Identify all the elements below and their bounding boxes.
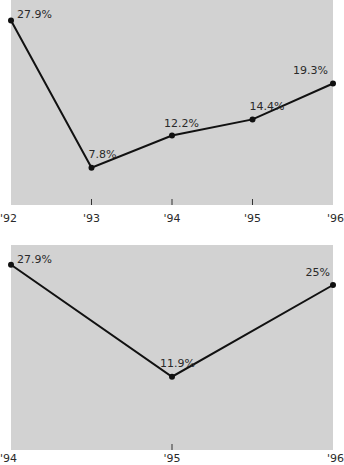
- x-tick-label: '93: [83, 212, 100, 225]
- data-point: [169, 133, 175, 139]
- x-tick-label: '94: [163, 212, 180, 225]
- chart-panel-2: 27.9%11.9%25%'94'95'96: [0, 245, 344, 465]
- chart-panel-1: 27.9%7.8%12.2%14.4%19.3%'92'93'94'95'96: [0, 0, 344, 225]
- data-point: [8, 17, 14, 23]
- data-label: 11.9%: [160, 357, 195, 370]
- data-label: 25%: [306, 266, 330, 279]
- x-tick-label: '95: [244, 212, 261, 225]
- data-point: [250, 116, 256, 122]
- x-tick-label: '92: [0, 212, 17, 225]
- data-label: 14.4%: [250, 100, 285, 113]
- x-tick-label: '96: [327, 212, 344, 225]
- data-label: 27.9%: [17, 253, 52, 266]
- data-point: [330, 282, 336, 288]
- data-label: 19.3%: [293, 64, 328, 77]
- x-tick-label: '96: [327, 452, 344, 465]
- plot-area: [11, 0, 333, 205]
- data-label: 7.8%: [89, 148, 117, 161]
- x-tick-label: '94: [0, 452, 17, 465]
- data-point: [89, 165, 95, 171]
- data-label: 27.9%: [17, 8, 52, 21]
- data-point: [169, 374, 175, 380]
- data-point: [8, 262, 14, 268]
- plot-area: [11, 245, 333, 450]
- data-label: 12.2%: [164, 117, 199, 130]
- x-tick-label: '95: [163, 452, 180, 465]
- data-point: [330, 80, 336, 86]
- line-charts: 27.9%7.8%12.2%14.4%19.3%'92'93'94'95'962…: [0, 0, 344, 465]
